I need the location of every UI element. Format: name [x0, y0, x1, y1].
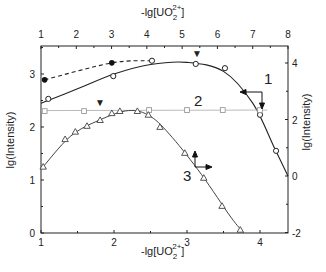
curve-2-point	[220, 108, 225, 113]
curve-2-label: 2	[194, 92, 202, 109]
bottom-tick-label: 4	[257, 237, 263, 248]
curve-2-point	[82, 109, 87, 114]
right-axis-title: lg(Intensity)	[300, 94, 312, 151]
bottom-tick-label: 3	[184, 237, 190, 248]
top-tick-label: 6	[215, 29, 221, 40]
top-tick-label: 3	[109, 29, 115, 40]
left-tick-label: 1	[29, 175, 35, 186]
curve-1-axis-arrows	[240, 90, 265, 110]
left-axis-title: lg(Intensity)	[4, 112, 16, 169]
curve-3-point	[201, 175, 207, 181]
curve-1-filled-point	[109, 60, 115, 66]
right-tick-label: -2	[292, 228, 301, 239]
curve-1-label: 1	[264, 70, 272, 87]
curve-1-point	[222, 66, 227, 71]
chart: 1234123456780123-2024 -lg[UO22+] -lg[UO2…	[0, 0, 326, 272]
curve-3-point	[97, 117, 103, 123]
data-markers	[40, 58, 279, 232]
curve-2-point	[185, 108, 190, 113]
curve-3-fit	[41, 110, 244, 233]
curve-1-dashed-fit	[45, 61, 152, 80]
plot-frame	[41, 46, 288, 233]
axis-ticks: 1234123456780123-2024	[29, 29, 301, 248]
top-tick-label: 8	[285, 29, 291, 40]
left-tick-label: 3	[29, 69, 35, 80]
curve-2-point	[42, 109, 47, 114]
curve-1-point	[273, 148, 278, 153]
curve-3-axis-arrows	[193, 151, 213, 170]
left-tick-label: 0	[29, 228, 35, 239]
right-tick-label: 0	[292, 171, 298, 182]
bottom-tick-label: 1	[38, 237, 44, 248]
curve-1-point	[111, 74, 116, 79]
curve-3-label: 3	[183, 167, 191, 184]
curve-1-point	[46, 96, 51, 101]
curve-1-point	[149, 58, 154, 63]
right-tick-label: 4	[292, 58, 298, 69]
curve-2-point	[147, 108, 152, 113]
curve-3-point	[237, 227, 243, 233]
curve-1-fit	[41, 62, 288, 176]
curves	[41, 61, 288, 233]
left-tick-label: 2	[29, 122, 35, 133]
curve-3-point	[219, 203, 225, 209]
top-tick-label: 4	[144, 29, 150, 40]
peak-marker-curve-3: ▼	[95, 97, 105, 108]
top-axis-title: -lg[UO22+]	[141, 3, 184, 22]
top-tick-label: 5	[179, 29, 185, 40]
curve-1-filled-point	[42, 77, 48, 83]
plot-box	[41, 46, 288, 233]
bottom-tick-label: 2	[111, 237, 117, 248]
top-tick-label: 1	[38, 29, 44, 40]
curve-1-point	[193, 61, 198, 66]
curve-3-point	[182, 150, 188, 156]
curve-2-fit	[41, 110, 267, 111]
peak-marker-curve-1: ▼	[192, 48, 202, 59]
bottom-axis-title: -lg[UO22+]	[141, 242, 184, 261]
curve-1-point	[257, 112, 262, 117]
right-tick-label: 2	[292, 115, 298, 126]
curve-3-point	[84, 123, 90, 129]
top-tick-label: 2	[74, 29, 80, 40]
top-tick-label: 7	[250, 29, 256, 40]
